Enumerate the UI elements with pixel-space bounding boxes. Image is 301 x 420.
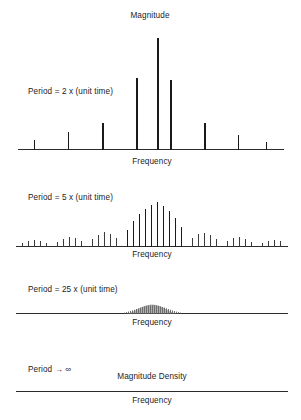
spectral-line <box>75 238 76 247</box>
spectral-line <box>216 239 217 247</box>
panel-period-25: Period = 25 x (unit time) <box>0 280 301 340</box>
spectral-line <box>251 242 252 247</box>
spectrum-plot-period-5 <box>0 185 301 247</box>
magnitude-title: Magnitude <box>130 11 169 20</box>
spectral-line <box>102 123 104 150</box>
spectral-line <box>163 206 164 247</box>
spectral-line <box>98 235 99 247</box>
spectral-line <box>170 80 172 150</box>
spectral-line <box>245 239 246 247</box>
fourier-spectrum-figure: Magnitude Period = 2 x (unit time) Frequ… <box>0 0 301 420</box>
spectral-line <box>204 233 205 247</box>
spectral-line <box>127 230 128 247</box>
spectral-line <box>34 140 35 150</box>
spectrum-plot-period-25 <box>0 292 301 314</box>
spectral-line <box>28 241 29 247</box>
spectral-line <box>104 232 105 247</box>
spectrum-plot-period-infinity <box>0 378 301 392</box>
spectral-line <box>139 214 140 247</box>
spectral-line <box>181 227 182 247</box>
spectral-line <box>22 243 23 247</box>
spectral-line <box>151 205 152 247</box>
spectral-line <box>192 238 193 247</box>
spectral-line <box>133 221 134 247</box>
panel-period-2: Magnitude Period = 2 x (unit time) Frequ… <box>0 0 301 175</box>
spectral-line <box>145 209 146 247</box>
spectral-line <box>238 135 239 150</box>
spectral-line <box>169 211 170 247</box>
spectral-line <box>110 234 111 247</box>
spectral-line <box>227 241 228 247</box>
spectral-line <box>157 38 159 150</box>
spectral-line <box>239 237 240 247</box>
spectral-line <box>69 237 70 247</box>
frequency-axis-label: Frequency <box>132 396 172 405</box>
spectral-line <box>136 78 138 150</box>
spectrum-plot-period-2 <box>0 26 301 150</box>
hump-envelope <box>122 304 182 314</box>
spectral-line <box>198 234 199 247</box>
spectral-line <box>266 142 267 150</box>
frequency-axis-label: Frequency <box>132 318 172 327</box>
spectral-line <box>175 218 176 247</box>
spectral-line <box>92 239 93 247</box>
spectral-line <box>204 123 206 150</box>
spectral-line <box>233 238 234 247</box>
continuum-hump <box>0 300 301 314</box>
spectral-line <box>34 240 35 247</box>
spectral-line <box>210 235 211 247</box>
panel-period-infinity: Period → ∞ Magnitude Density Frequency <box>0 358 301 410</box>
frequency-axis-line <box>18 149 284 150</box>
frequency-axis-label: Frequency <box>132 157 172 166</box>
spectral-line <box>262 243 263 247</box>
spectral-line <box>116 238 117 247</box>
spectral-line <box>157 202 158 247</box>
spectral-line <box>274 240 275 247</box>
spectral-line <box>268 241 269 247</box>
spectral-line <box>57 242 58 247</box>
frequency-axis-label: Frequency <box>132 250 172 259</box>
spectral-line <box>63 239 64 247</box>
period-infinity-label: Period → ∞ <box>28 365 71 374</box>
frequency-axis-line <box>16 391 288 392</box>
spectral-line <box>81 241 82 247</box>
spectral-line <box>68 132 69 150</box>
panel-period-5: Period = 5 x (unit time) <box>0 185 301 270</box>
spectral-line <box>46 243 47 247</box>
spectral-line <box>280 241 281 247</box>
spectral-line <box>40 241 41 247</box>
